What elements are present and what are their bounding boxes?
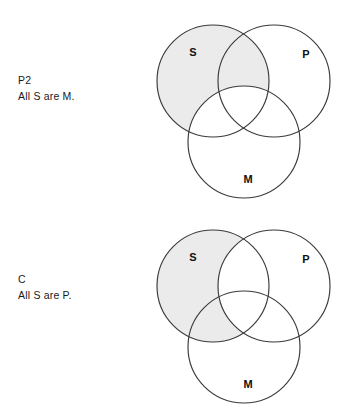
caption-label: P2 [18, 72, 148, 88]
venn-diagram-p2: S P M [150, 12, 350, 204]
caption-p2: P2 All S are M. [18, 72, 148, 104]
caption-c: C All S are P. [18, 271, 148, 303]
caption-text: All S are P. [18, 287, 148, 303]
panel-p2: P2 All S are M. [0, 0, 354, 204]
venn-diagram-c: S P M [150, 217, 350, 409]
circle-label-p: P [302, 253, 309, 265]
figure-page: P2 All S are M. [0, 0, 354, 409]
caption-label: C [18, 271, 148, 287]
circle-label-s: S [189, 251, 196, 263]
panel-c: C All S are P. [0, 205, 354, 409]
caption-text: All S are M. [18, 88, 148, 104]
circle-label-m: M [243, 378, 252, 390]
circle-label-m: M [243, 173, 252, 185]
circle-label-p: P [302, 48, 309, 60]
circle-label-s: S [189, 46, 196, 58]
